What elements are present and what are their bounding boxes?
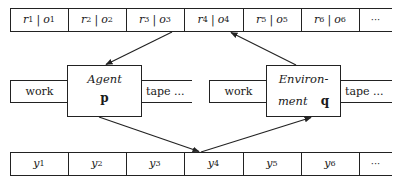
arrows-layer xyxy=(0,0,397,185)
arrow-agent-to-action xyxy=(99,117,199,152)
arrow-action-to-environment xyxy=(201,118,311,153)
arrow-environment-to-percept xyxy=(231,33,296,66)
arrow-percept-to-agent xyxy=(106,32,172,65)
